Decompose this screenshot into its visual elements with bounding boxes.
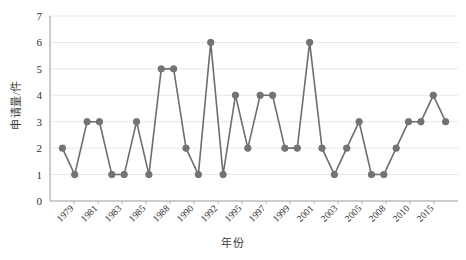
y-axis-tick-label: 3 xyxy=(37,116,43,128)
y-axis-tick-label: 1 xyxy=(37,169,43,181)
x-axis-tick-label: 1992 xyxy=(199,203,220,224)
line-chart-plot: 0123456719791981198319851988199019921995… xyxy=(0,0,466,260)
data-point-marker xyxy=(430,92,436,98)
data-point-marker xyxy=(146,171,152,177)
data-point-marker xyxy=(344,145,350,151)
x-axis-tick-label: 2008 xyxy=(367,203,388,224)
data-point-marker xyxy=(121,171,127,177)
data-point-marker xyxy=(195,171,201,177)
data-point-marker xyxy=(405,119,411,125)
data-point-marker xyxy=(109,171,115,177)
data-point-marker xyxy=(96,119,102,125)
data-point-marker xyxy=(442,119,448,125)
data-point-marker xyxy=(183,145,189,151)
y-axis-tick-label: 5 xyxy=(37,63,43,75)
data-point-marker xyxy=(72,171,78,177)
data-point-marker xyxy=(294,145,300,151)
data-point-marker xyxy=(257,92,263,98)
chart-container: 0123456719791981198319851988199019921995… xyxy=(0,0,466,260)
data-point-marker xyxy=(170,66,176,72)
x-axis-tick-label: 1988 xyxy=(151,203,172,224)
data-point-marker xyxy=(232,92,238,98)
x-axis-tick-label: 2015 xyxy=(415,203,436,224)
x-axis-tick-label: 1979 xyxy=(55,203,76,224)
x-axis-tick-label: 1990 xyxy=(175,203,196,224)
data-point-marker xyxy=(319,145,325,151)
x-axis-tick-label: 1981 xyxy=(79,203,100,224)
data-point-marker xyxy=(84,119,90,125)
x-axis-tick-label: 1985 xyxy=(127,203,148,224)
y-axis-tick-label: 4 xyxy=(37,89,43,101)
x-axis-tick-label: 1997 xyxy=(247,203,268,224)
x-axis-tick-label: 2010 xyxy=(391,203,412,224)
data-point-marker xyxy=(393,145,399,151)
y-axis-tick-label: 7 xyxy=(37,10,43,22)
data-point-marker xyxy=(331,171,337,177)
y-axis-tick-label: 0 xyxy=(37,195,43,207)
x-axis-title: 年份 xyxy=(0,234,466,250)
data-point-marker xyxy=(245,145,251,151)
data-point-marker xyxy=(133,119,139,125)
x-axis-tick-label: 2005 xyxy=(343,203,364,224)
data-point-marker xyxy=(282,145,288,151)
x-axis-tick-label: 1995 xyxy=(223,203,244,224)
data-point-marker xyxy=(368,171,374,177)
x-axis-tick-label: 2003 xyxy=(319,203,340,224)
data-point-marker xyxy=(59,145,65,151)
x-axis-tick-label: 1999 xyxy=(271,203,292,224)
data-point-marker xyxy=(220,171,226,177)
data-point-marker xyxy=(208,39,214,45)
x-axis-tick-label: 1983 xyxy=(103,203,124,224)
x-axis-tick-label: 2001 xyxy=(295,203,316,224)
data-point-marker xyxy=(381,171,387,177)
data-point-marker xyxy=(158,66,164,72)
y-axis-tick-label: 6 xyxy=(37,36,43,48)
data-point-marker xyxy=(356,119,362,125)
data-point-marker xyxy=(306,39,312,45)
data-point-marker xyxy=(269,92,275,98)
y-axis-tick-label: 2 xyxy=(37,142,43,154)
data-point-marker xyxy=(418,119,424,125)
